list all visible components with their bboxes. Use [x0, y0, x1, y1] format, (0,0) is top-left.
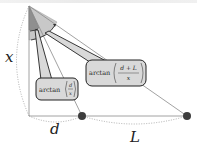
near-angle-callout: arctan d x	[36, 78, 78, 100]
far-callout-prefix: arctan	[89, 69, 110, 77]
near-callout-pointer	[35, 30, 52, 80]
L-label: L	[129, 128, 140, 142]
near-callout-denominator: x	[69, 90, 72, 96]
x-dotted-arc	[17, 6, 30, 116]
d-label: d	[50, 120, 60, 138]
x-label: x	[5, 48, 14, 66]
near-callout-numerator: d	[69, 82, 72, 88]
geometry-diagram: arctan d x arctan d + L x x d L	[0, 0, 197, 142]
L-dotted-arc	[82, 116, 187, 124]
far-point-dot	[183, 112, 191, 120]
far-angle-callout: arctan d + L x	[86, 60, 146, 86]
near-callout-prefix: arctan	[39, 86, 60, 94]
near-point-dot	[78, 112, 86, 120]
far-callout-numerator: d + L	[120, 64, 137, 71]
